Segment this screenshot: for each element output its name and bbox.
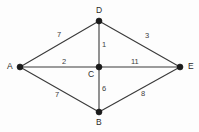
graph-node-a [17,64,23,70]
node-label-a: A [7,62,13,71]
node-label-c: C [88,70,94,79]
graph-node-d [96,18,102,24]
edge-weight-label: 11 [131,58,139,66]
graph-node-b [96,109,102,115]
edge-weight-label: 3 [145,32,149,40]
graph-canvas [0,0,199,132]
node-label-e: E [188,62,194,71]
graph-node-e [177,64,183,70]
node-label-d: D [96,6,102,15]
edge-weight-label: 7 [55,91,59,99]
graph-node-c [96,64,102,70]
graph-edge [20,21,99,67]
edge-weight-label: 8 [141,90,145,98]
node-label-b: B [96,118,102,127]
graph-edge [99,67,180,112]
graph-edge [99,21,180,67]
edge-weight-label: 2 [62,58,66,66]
edge-weight-label: 1 [102,41,106,49]
graph-diagram: 727136118 ADCBE [0,0,199,132]
edge-weight-label: 7 [57,31,61,39]
edge-weight-label: 6 [102,85,106,93]
